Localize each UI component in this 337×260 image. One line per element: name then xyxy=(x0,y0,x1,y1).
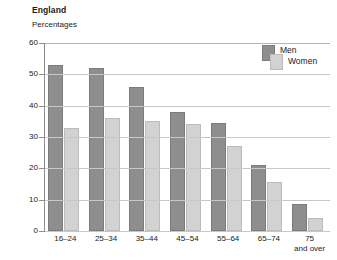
bar-men xyxy=(170,112,185,231)
x-tick-label: 16–24 xyxy=(45,234,86,244)
plot-area xyxy=(45,43,330,231)
bar-women xyxy=(186,124,201,231)
chart-subtitle: Percentages xyxy=(32,20,77,29)
gridline xyxy=(45,43,330,44)
bar-women xyxy=(267,182,282,231)
y-axis-labels: 0102030405060 xyxy=(8,0,38,260)
y-tick-label: 60 xyxy=(12,39,38,47)
bar-men xyxy=(251,165,266,231)
y-axis-tick xyxy=(39,200,44,201)
legend-swatch-women xyxy=(270,54,283,70)
bar-women xyxy=(227,146,242,231)
bar-women xyxy=(308,218,323,231)
x-tick-label-line: 16–24 xyxy=(54,234,76,243)
bar-men xyxy=(48,65,63,231)
x-tick-label: 65–74 xyxy=(249,234,290,244)
legend-label-women: Women xyxy=(288,57,317,66)
x-tick-label: 45–54 xyxy=(167,234,208,244)
y-axis-tick xyxy=(39,231,44,232)
y-axis-tick xyxy=(39,43,44,44)
y-tick-label: 50 xyxy=(12,70,38,78)
y-axis-tick xyxy=(39,106,44,107)
bar-men xyxy=(129,87,144,231)
gridline xyxy=(45,168,330,169)
chart-container: England Percentages 0102030405060 16–242… xyxy=(0,0,337,260)
gridline xyxy=(45,137,330,138)
bar-women xyxy=(105,118,120,231)
x-axis-labels: 16–2425–3435–4445–5455–6465–7475and over xyxy=(45,234,330,260)
y-axis-tick xyxy=(39,137,44,138)
x-tick-label: 35–44 xyxy=(126,234,167,244)
y-tick-label: 40 xyxy=(12,102,38,110)
x-tick-label: 55–64 xyxy=(208,234,249,244)
x-tick-label-line: and over xyxy=(289,244,330,254)
y-tick-label: 30 xyxy=(12,133,38,141)
x-tick-label-line: 25–34 xyxy=(95,234,117,243)
x-tick-label-line: 65–74 xyxy=(258,234,280,243)
y-tick-label: 20 xyxy=(12,164,38,172)
x-tick-label: 75and over xyxy=(289,234,330,254)
gridline xyxy=(45,231,330,232)
gridline xyxy=(45,106,330,107)
x-tick-label-line: 35–44 xyxy=(136,234,158,243)
bar-women xyxy=(64,128,79,231)
bar-men xyxy=(211,123,226,231)
bar-men xyxy=(292,204,307,231)
x-tick-label-line: 55–64 xyxy=(217,234,239,243)
x-tick-label: 25–34 xyxy=(86,234,127,244)
bar-men xyxy=(89,68,104,231)
chart-legend: Men Women xyxy=(262,45,334,71)
y-axis-tick xyxy=(39,168,44,169)
y-axis-tick xyxy=(39,74,44,75)
x-tick-label-line: 45–54 xyxy=(176,234,198,243)
legend-label-men: Men xyxy=(280,46,297,55)
gridline xyxy=(45,74,330,75)
x-tick-label-line: 75 xyxy=(305,234,314,243)
y-tick-label: 10 xyxy=(12,196,38,204)
y-tick-label: 0 xyxy=(12,227,38,235)
gridline xyxy=(45,200,330,201)
